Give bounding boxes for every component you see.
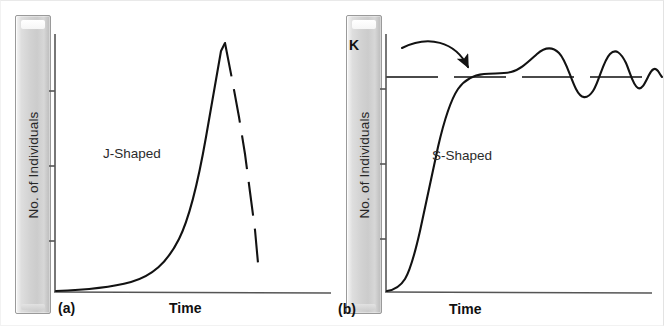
curve-label-j-shaped: J-Shaped bbox=[103, 146, 161, 161]
curve-label-s-shaped: S-Shaped bbox=[432, 148, 492, 163]
x-axis-line-a bbox=[54, 292, 331, 293]
plot-svg-b bbox=[380, 1, 664, 326]
y-axis-title-a: No. of Individuals bbox=[26, 111, 41, 218]
curve-j-shaped-growth bbox=[56, 43, 225, 291]
plot-svg-a bbox=[49, 1, 333, 326]
k-annotation-arrow bbox=[402, 41, 468, 67]
panel-label-b: (b) bbox=[338, 301, 356, 317]
bar-gloss-top-a bbox=[21, 20, 45, 29]
y-axis-title-b: No. of Individuals bbox=[357, 111, 372, 218]
bar-gloss-bottom-a bbox=[21, 304, 45, 310]
panel-a: No. of Individuals J-Shaped (a) Time bbox=[1, 1, 333, 326]
panel-b: No. of Individuals bbox=[332, 1, 664, 326]
curve-j-shaped-crash bbox=[225, 43, 258, 263]
panel-label-a: (a) bbox=[58, 300, 75, 316]
curve-s-shaped-logistic bbox=[387, 48, 662, 291]
plot-area-b bbox=[380, 1, 664, 326]
population-growth-figure: No. of Individuals J-Shaped (a) Time bbox=[0, 0, 664, 326]
x-axis-title-b: Time bbox=[449, 301, 481, 317]
carrying-capacity-label: K bbox=[349, 37, 359, 53]
bar-gloss-top-b bbox=[352, 20, 376, 29]
y-axis-title-bar-a: No. of Individuals bbox=[15, 15, 51, 314]
plot-area-a bbox=[49, 1, 333, 326]
y-axis-title-bar-b: No. of Individuals bbox=[346, 15, 382, 314]
x-axis-line-b bbox=[385, 292, 652, 293]
x-axis-title-a: Time bbox=[169, 300, 201, 316]
